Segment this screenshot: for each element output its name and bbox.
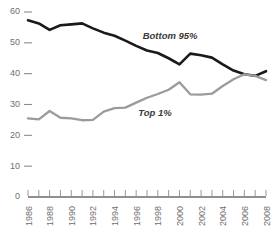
x-tick-label: 2006 (240, 206, 250, 226)
y-tick-label: 0 (15, 191, 20, 201)
chart-container: 0102030405060198619881990199219941996199… (0, 0, 274, 244)
x-tick-label: 1988 (45, 206, 55, 226)
series-annotation: Top 1% (138, 107, 172, 118)
series-line-bottom-95 (28, 20, 266, 76)
line-chart: 0102030405060198619881990199219941996199… (0, 0, 274, 244)
x-tick-label: 1994 (110, 206, 120, 226)
x-tick-label: 2002 (197, 206, 207, 226)
x-tick-label: 1992 (88, 206, 98, 226)
x-tick-label: 1998 (153, 206, 163, 226)
x-tick-label: 1986 (24, 206, 34, 226)
x-tick-label: 2004 (218, 206, 228, 226)
y-tick-label: 30 (10, 99, 20, 109)
x-tick-label: 2000 (175, 206, 185, 226)
y-tick-label: 10 (10, 161, 20, 171)
y-tick-label: 50 (10, 37, 20, 47)
x-axis: 1986198819901992199419961998200020022004… (24, 190, 272, 226)
series-annotation: Bottom 95% (143, 30, 198, 41)
y-tick-label: 40 (10, 68, 20, 78)
x-tick-label: 2008 (262, 206, 272, 226)
y-tick-label: 20 (10, 130, 20, 140)
y-axis: 0102030405060 (10, 6, 32, 201)
x-tick-label: 1996 (132, 206, 142, 226)
x-tick-label: 1990 (67, 206, 77, 226)
y-tick-label: 60 (10, 6, 20, 16)
